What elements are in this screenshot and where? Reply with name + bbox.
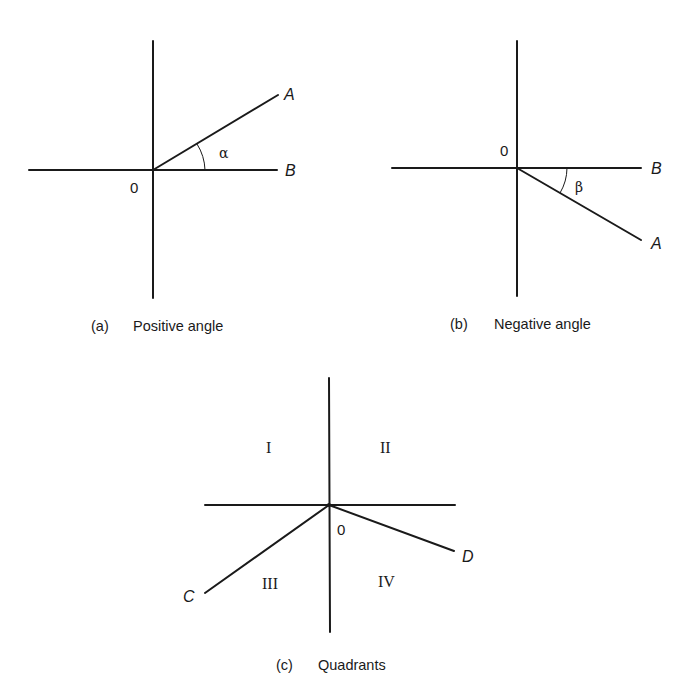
angle-arc-alpha xyxy=(197,144,205,170)
caption-tag-b: (b) xyxy=(450,316,468,332)
label-quadrant-iv: IV xyxy=(378,573,395,590)
label-b: B xyxy=(651,160,662,177)
label-b: B xyxy=(285,162,296,179)
caption-b: Negative angle xyxy=(494,316,591,332)
label-c: C xyxy=(183,588,195,605)
label-quadrant-iii: III xyxy=(262,575,278,592)
caption-tag-a: (a) xyxy=(91,318,109,334)
caption-c: Quadrants xyxy=(318,657,386,673)
label-a: A xyxy=(650,235,662,252)
label-beta: β xyxy=(575,179,583,195)
label-origin: 0 xyxy=(337,521,345,538)
ray-oa xyxy=(153,95,278,170)
label-quadrant-ii: II xyxy=(380,439,391,456)
label-d: D xyxy=(462,548,474,565)
label-quadrant-i: I xyxy=(266,439,271,456)
angles-diagram: A B α 0 (a) Positive angle B A β 0 (b) N… xyxy=(0,0,692,696)
label-origin: 0 xyxy=(130,179,138,196)
angle-arc-beta xyxy=(560,168,567,193)
figure-c-quadrants: I II III IV C D 0 (c) Quadrants xyxy=(183,378,474,673)
label-a: A xyxy=(283,86,295,103)
origin-point xyxy=(327,503,331,507)
ray-od xyxy=(329,505,454,551)
figure-b-negative-angle: B A β 0 (b) Negative angle xyxy=(392,41,662,332)
caption-tag-c: (c) xyxy=(276,657,293,673)
caption-a: Positive angle xyxy=(133,318,223,334)
label-origin: 0 xyxy=(500,142,508,159)
label-alpha: α xyxy=(219,145,229,161)
figure-a-positive-angle: A B α 0 (a) Positive angle xyxy=(29,41,296,334)
